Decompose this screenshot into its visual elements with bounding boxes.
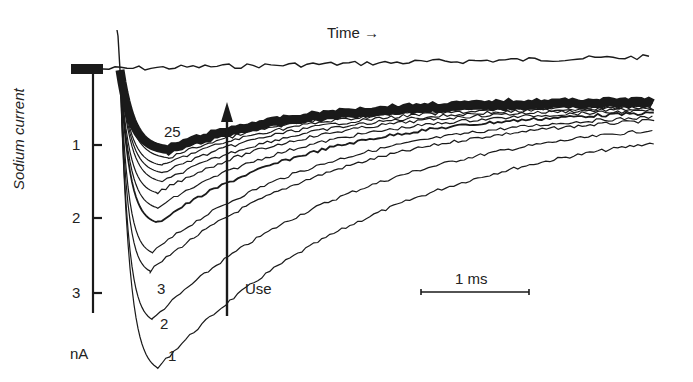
- y-unit-label: nA: [70, 345, 88, 362]
- trace-label-25: 25: [164, 123, 181, 140]
- trace-7: [120, 70, 654, 194]
- stimulus-artifact: [117, 30, 120, 70]
- y-tick-3: 3: [72, 284, 80, 301]
- sodium-current-traces: [120, 70, 654, 368]
- time-scale-bar: [421, 289, 529, 295]
- y-axis-label-text: Sodium current: [10, 88, 27, 190]
- trace-5: [120, 70, 654, 222]
- current-traces-plot: [0, 0, 693, 382]
- y-axis-label: Sodium current: [10, 88, 27, 190]
- trace-4: [120, 70, 652, 253]
- trace-label-3: 3: [157, 280, 165, 297]
- y-tick-2: 2: [72, 209, 80, 226]
- baseline-marker: [71, 64, 103, 74]
- trace-label-2: 2: [160, 315, 168, 332]
- sodium-current-figure: Time → Sodium current 1 2 3 nA 25 3 2 1 …: [0, 0, 693, 382]
- time-axis-label: Time →: [327, 24, 379, 41]
- time-trace: [103, 55, 649, 70]
- scale-bar-label: 1 ms: [455, 270, 488, 287]
- y-tick-1: 1: [72, 136, 80, 153]
- trace-8: [120, 70, 651, 182]
- trace-10: [120, 70, 651, 165]
- trace-label-1: 1: [168, 347, 176, 364]
- y-axis: [93, 74, 102, 313]
- use-arrow-label: Use: [245, 280, 272, 297]
